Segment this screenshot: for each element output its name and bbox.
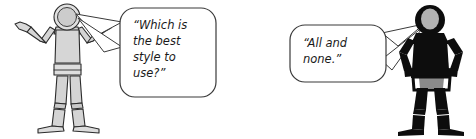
left-figure-knee-right [71, 103, 83, 109]
right-figure-shin-left [412, 115, 425, 130]
left-bubble-line-1: “Which is [133, 18, 187, 32]
right-speech-bubble: “All and none.” [290, 25, 386, 82]
left-bubble-line-4: use?” [133, 66, 166, 80]
right-bubble-line-1: “All and [303, 36, 348, 50]
left-bubble-line-2: the best [133, 34, 181, 48]
left-bubble-line-3: style to [133, 50, 176, 64]
illustration-scene: “Which is the best style to use?” “All a… [0, 0, 476, 139]
left-figure-torso [55, 30, 80, 63]
left-figure-pelvis [54, 64, 81, 75]
left-figure-thigh-right [70, 76, 82, 104]
left-figure-head-inner [58, 8, 77, 27]
scene-canvas: “Which is the best style to use?” “All a… [0, 0, 476, 139]
right-figure-knee-right [436, 109, 449, 115]
left-figure-thigh-left [55, 76, 68, 104]
right-bubble-line-2: none.” [303, 52, 342, 66]
right-figure-knee-left [413, 109, 426, 115]
right-figure-pelvis-patch [419, 78, 444, 88]
right-figure-torso [412, 40, 449, 70]
left-figure-knee-left [54, 103, 66, 109]
right-figure-shin-right [437, 115, 450, 130]
left-figure-shin-left [52, 109, 65, 127]
left-speech-bubble: “Which is the best style to use?” [120, 8, 216, 97]
right-figure-head-inner [421, 9, 439, 30]
left-figure-shin-right [72, 109, 85, 127]
